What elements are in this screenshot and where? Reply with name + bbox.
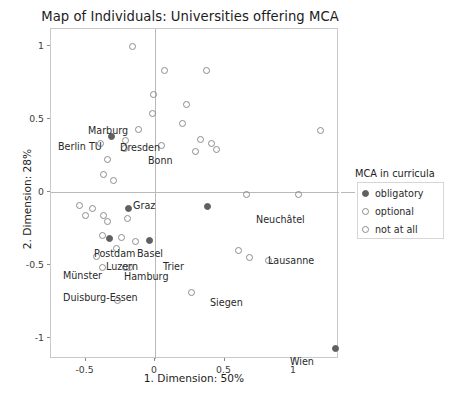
data-point <box>110 177 117 184</box>
plot-panel <box>50 28 338 358</box>
data-point <box>146 237 153 244</box>
data-point <box>129 43 136 50</box>
data-point <box>235 247 242 254</box>
point-label: Neuchâtel <box>256 215 305 225</box>
legend-item-label: optional <box>375 206 414 217</box>
y-axis-label: 2. Dimension: 28% <box>21 119 33 279</box>
legend-marker-icon <box>362 208 369 215</box>
y-tick-mark <box>47 337 50 338</box>
data-point <box>161 67 168 74</box>
point-label: Berlin TU <box>58 142 102 152</box>
point-label: Siegen <box>210 298 243 308</box>
y-tick-mark <box>47 118 50 119</box>
x-tick-mark <box>224 358 225 361</box>
legend-item-label: not at all <box>375 224 418 235</box>
data-point <box>100 171 107 178</box>
data-point <box>82 212 89 219</box>
data-point <box>204 203 211 210</box>
data-point <box>243 191 250 198</box>
x-axis-label: 1. Dimension: 50% <box>50 372 338 384</box>
point-label: Marburg <box>88 126 128 136</box>
data-point <box>104 156 111 163</box>
point-label: Postdam <box>94 249 135 259</box>
data-point <box>135 126 142 133</box>
data-point <box>246 254 253 261</box>
legend-marker-icon <box>362 226 369 233</box>
point-label: Hamburg <box>124 272 168 282</box>
data-point <box>183 101 190 108</box>
data-point <box>76 202 83 209</box>
data-point <box>203 67 210 74</box>
data-point <box>149 110 156 117</box>
point-label: Bonn <box>148 156 173 166</box>
data-point <box>317 127 324 134</box>
data-point <box>118 234 125 241</box>
data-point <box>104 218 111 225</box>
point-label: Wien <box>290 357 314 367</box>
y-tick-label: 1 <box>16 40 44 51</box>
legend-marker-icon <box>362 190 369 197</box>
data-point <box>197 136 204 143</box>
point-label: Duisburg-Essen <box>63 293 138 303</box>
data-point <box>150 91 157 98</box>
legend-connector-line <box>341 192 355 193</box>
y-tick-mark <box>47 191 50 192</box>
point-label: Basel <box>137 249 163 259</box>
point-label: Münster <box>63 271 102 281</box>
data-point <box>295 191 302 198</box>
vertical-zero-line <box>155 29 156 359</box>
point-label: Lausanne <box>268 256 314 266</box>
data-point <box>192 148 199 155</box>
y-tick-mark <box>47 45 50 46</box>
data-point <box>213 146 220 153</box>
y-tick-label: -1 <box>16 332 44 343</box>
x-tick-mark <box>154 358 155 361</box>
legend-item-label: obligatory <box>375 188 424 199</box>
data-point <box>124 215 131 222</box>
data-point <box>332 345 339 352</box>
point-label: Dresden <box>120 143 160 153</box>
data-point <box>179 120 186 127</box>
data-point <box>106 235 113 242</box>
point-label: Graz <box>133 201 155 211</box>
x-tick-mark <box>85 358 86 361</box>
data-point <box>89 205 96 212</box>
y-tick-mark <box>47 264 50 265</box>
data-point <box>125 205 132 212</box>
data-point <box>188 289 195 296</box>
chart-title: Map of Individuals: Universities offerin… <box>0 9 380 24</box>
chart-root: Map of Individuals: Universities offerin… <box>0 0 464 404</box>
data-point <box>132 238 139 245</box>
data-point <box>99 232 106 239</box>
legend-title: MCA in curricula <box>355 168 435 179</box>
